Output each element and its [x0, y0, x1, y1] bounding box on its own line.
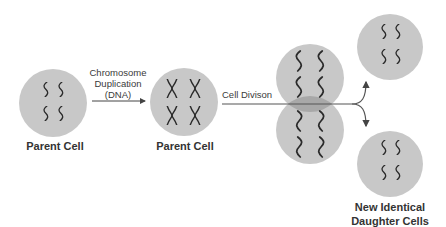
parent-cell-1	[19, 69, 87, 137]
parent-cell-2-label: Parent Cell	[145, 140, 225, 152]
duplication-label-line-1: Chromosome	[80, 67, 156, 78]
daughter-cell-bottom	[357, 131, 423, 197]
daughter-cells-label-line-1: New Identical	[340, 200, 440, 214]
parent-cell-2	[150, 68, 218, 136]
duplication-label: Chromosome Duplication (DNA)	[80, 67, 156, 100]
duplication-label-line-3: (DNA)	[80, 89, 156, 100]
parent-cell-1-label: Parent Cell	[15, 140, 95, 152]
duplication-label-line-2: Duplication	[80, 78, 156, 89]
daughter-cells-label-line-2: Daughter Cells	[340, 214, 440, 227]
daughter-cell-top	[357, 14, 423, 80]
cell-division-label: Cell Divison	[222, 89, 272, 100]
mitosis-diagram	[0, 0, 446, 227]
daughter-cells-label: New Identical Daughter Cells	[340, 200, 440, 227]
